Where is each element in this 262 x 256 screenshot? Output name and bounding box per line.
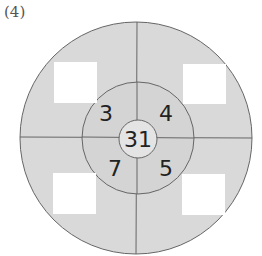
answer-box-top-right[interactable] [183,64,226,104]
value-bottom-right: 5 [159,156,173,181]
value-bottom-left: 7 [108,156,122,181]
answer-box-bottom-left[interactable] [53,173,96,214]
answer-box-bottom-right[interactable] [182,174,225,215]
value-top-right: 4 [159,101,173,126]
circle-puzzle-diagram: 3 4 7 5 31 [0,0,262,256]
center-value: 31 [124,127,152,152]
value-top-left: 3 [99,101,113,126]
answer-box-top-left[interactable] [54,62,97,103]
